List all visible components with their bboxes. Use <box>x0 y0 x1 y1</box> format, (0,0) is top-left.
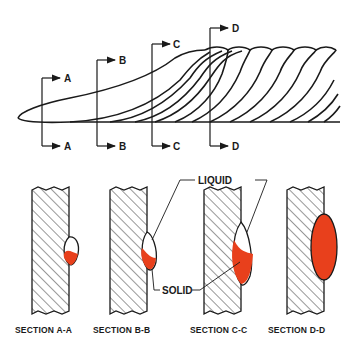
weld-diagram: A A B B C C D D <box>0 0 355 343</box>
marker-b-bottom-label: B <box>119 141 126 152</box>
liquid-label: LIQUID <box>198 175 232 186</box>
weld-bead <box>18 47 340 122</box>
caption-section-b-b: SECTION B-B <box>93 325 150 335</box>
marker-c-bottom-label: C <box>173 141 180 152</box>
section-marker-a <box>42 78 60 146</box>
marker-d-top-label: D <box>232 23 239 34</box>
caption-section-c-c: SECTION C-C <box>190 325 247 335</box>
marker-a-top-label: A <box>64 73 71 84</box>
solid-label: SOLID <box>162 285 193 296</box>
section-marker-b <box>97 60 115 146</box>
marker-b-top-label: B <box>119 55 126 66</box>
section-c-c <box>204 187 253 314</box>
marker-c-top-label: C <box>173 39 180 50</box>
section-b-b <box>110 187 156 314</box>
caption-section-d-d: SECTION D-D <box>268 325 325 335</box>
marker-d-bottom-label: D <box>232 141 239 152</box>
section-marker-d <box>210 28 228 146</box>
section-a-a <box>32 187 79 314</box>
caption-section-a-a: SECTION A-A <box>15 325 72 335</box>
marker-a-bottom-label: A <box>64 141 71 152</box>
section-d-d <box>287 187 337 314</box>
